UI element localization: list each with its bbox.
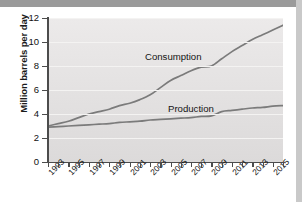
- y-tick-label: 8: [17, 60, 39, 71]
- x-tick: [120, 162, 121, 167]
- line-consumption: [48, 25, 283, 126]
- y-tick-label: 4: [17, 108, 39, 119]
- gridline: [48, 114, 283, 115]
- series-label-consumption: Consumption: [145, 51, 202, 62]
- y-tick: [42, 42, 48, 43]
- y-tick-label: 0: [17, 156, 39, 167]
- chart-figure: Million barrels per day 024681012 199319…: [0, 0, 302, 202]
- y-tick: [42, 90, 48, 91]
- y-tick: [42, 138, 48, 139]
- x-tick: [242, 162, 243, 167]
- gridline: [48, 42, 283, 43]
- gridline: [48, 90, 283, 91]
- x-tick: [222, 162, 223, 167]
- x-tick: [160, 162, 161, 167]
- x-tick: [283, 162, 284, 167]
- x-tick: [58, 162, 59, 167]
- scan-top-band: [0, 0, 302, 7]
- y-tick-label: 6: [17, 84, 39, 95]
- x-tick: [181, 162, 182, 167]
- scan-right-band: [296, 0, 302, 202]
- gridline: [48, 138, 283, 139]
- x-tick: [79, 162, 80, 167]
- x-tick: [201, 162, 202, 167]
- gridline: [48, 66, 283, 67]
- y-tick: [42, 66, 48, 67]
- plot-area: [48, 18, 283, 162]
- y-tick-label: 12: [17, 12, 39, 23]
- x-tick: [140, 162, 141, 167]
- y-tick: [42, 114, 48, 115]
- gridline: [48, 18, 283, 19]
- y-tick: [42, 18, 48, 19]
- x-tick: [99, 162, 100, 167]
- series-label-production: Production: [168, 103, 214, 114]
- y-tick-label: 10: [17, 36, 39, 47]
- y-tick-label: 2: [17, 132, 39, 143]
- x-tick: [263, 162, 264, 167]
